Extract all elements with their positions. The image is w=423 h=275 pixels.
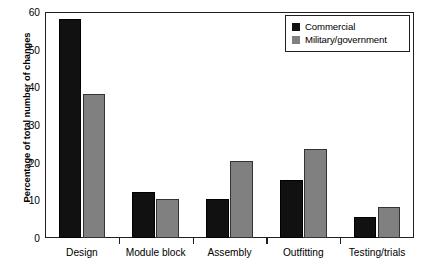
x-axis-category-label: Module block (126, 247, 186, 258)
bar-commercial (206, 199, 229, 238)
bar-chart: Percentage of total number of changes 01… (0, 0, 423, 275)
legend-swatch-military (292, 36, 300, 44)
bar-military (156, 199, 179, 238)
x-axis-category-label: Outfitting (283, 247, 324, 258)
x-axis-category-label: Design (66, 247, 98, 258)
y-axis-tick-label: 10 (6, 195, 40, 206)
legend-label: Commercial (305, 21, 355, 32)
legend-item: Commercial (292, 20, 403, 33)
bar-commercial (132, 192, 155, 238)
y-axis-tick-label: 0 (6, 233, 40, 244)
x-axis-tick-mark (266, 238, 267, 244)
x-axis-tick-mark (340, 238, 341, 244)
bar-military (304, 149, 327, 238)
y-axis-tick-label: 20 (6, 157, 40, 168)
bar-commercial (59, 19, 82, 238)
y-axis-tick-label: 60 (6, 7, 40, 18)
bar-military (378, 207, 401, 238)
bar-military (230, 161, 253, 238)
y-axis-tick-label: 40 (6, 82, 40, 93)
x-axis-tick-mark (193, 238, 194, 244)
x-axis-category-label: Assembly (207, 247, 251, 258)
bar-commercial (354, 217, 377, 238)
bar-commercial (280, 180, 303, 238)
legend-item: Military/government (292, 33, 403, 46)
x-axis-tick-mark (119, 238, 120, 244)
bar-military (83, 94, 106, 238)
y-axis-tick-label: 50 (6, 44, 40, 55)
legend-label: Military/government (305, 34, 387, 45)
chart-legend: Commercial Military/government (285, 15, 410, 52)
legend-swatch-commercial (292, 23, 300, 31)
y-axis-tick-label: 30 (6, 120, 40, 131)
x-axis-category-label: Testing/trials (349, 247, 406, 258)
